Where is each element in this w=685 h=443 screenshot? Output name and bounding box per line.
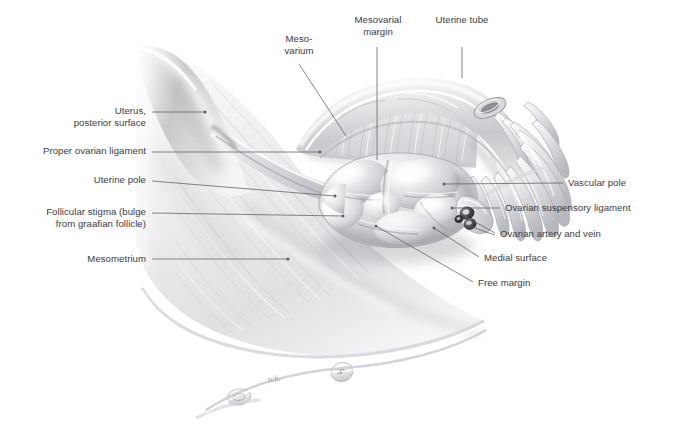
anatomical-figure: sch. Uterus, posterior surface Proper ov… [0,0,685,443]
label-follicular-stigma: Follicular stigma (bulge from graafian f… [14,206,146,229]
label-uterus: Uterus, posterior surface [27,105,146,128]
label-proper-ovarian-ligament: Proper ovarian ligament [11,145,146,157]
label-mesovarial-margin: Mesovarial margin [336,14,420,37]
artist-signature: sch. [267,374,281,384]
label-free-margin: Free margin [478,277,573,289]
label-ovarian-suspensory-ligament: Ovarian suspensory ligament [505,202,675,214]
label-medial-surface: Medial surface [484,252,594,264]
label-vascular-pole: Vascular pole [568,177,668,189]
label-uterine-pole: Uterine pole [60,174,146,186]
ovary-body [312,153,480,263]
label-mesometrium: Mesometrium [56,253,146,265]
label-mesovarium: Meso- varium [268,33,330,56]
label-ovarian-artery-and-vein: Ovarian artery and vein [500,228,645,240]
label-uterine-tube: Uterine tube [421,14,503,26]
